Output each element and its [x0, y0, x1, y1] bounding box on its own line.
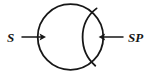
label-sp: SP: [128, 30, 144, 45]
diagram-figure: S SP: [0, 0, 148, 73]
inner-arc: [83, 8, 97, 65]
main-circle: [38, 4, 104, 70]
label-s: S: [7, 30, 14, 45]
diagram-canvas: S SP: [0, 0, 148, 73]
